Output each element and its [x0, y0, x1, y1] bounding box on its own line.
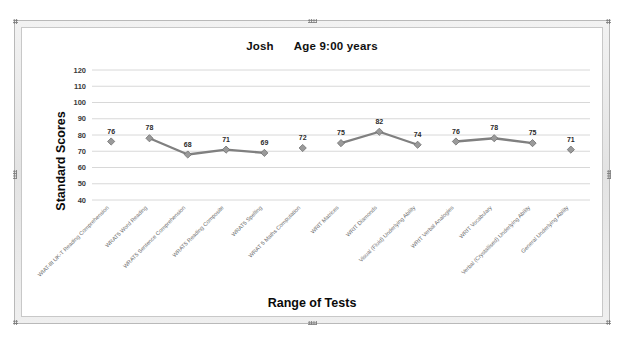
- data-point-marker[interactable]: [299, 144, 306, 151]
- data-point-label: 78: [490, 124, 498, 131]
- x-axis-category-label: WRAT5 Sentence Comprehension: [122, 204, 187, 269]
- y-axis-tick-label: 100: [73, 98, 86, 107]
- data-point-marker[interactable]: [146, 135, 153, 142]
- y-axis-tick-label: 110: [74, 82, 86, 91]
- resize-handle-bottom-center[interactable]: [308, 321, 317, 325]
- data-point-marker[interactable]: [452, 138, 459, 145]
- resize-handle-top-center[interactable]: [308, 19, 317, 23]
- data-point-label: 78: [146, 124, 154, 131]
- data-point-marker[interactable]: [376, 128, 383, 135]
- data-point-marker[interactable]: [491, 135, 498, 142]
- series-line-segment: [149, 138, 264, 154]
- resize-handle-top-right[interactable]: [606, 19, 611, 24]
- data-point-marker[interactable]: [222, 146, 229, 153]
- data-point-label: 76: [107, 128, 115, 135]
- data-point-label: 75: [529, 129, 537, 136]
- x-axis-category-label: WRIT Verbal Analogies: [410, 204, 455, 249]
- embedded-chart-object-frame[interactable]: Josh Age 9:00 years Standard Scores Rang…: [14, 20, 610, 324]
- x-axis-category-label: WIAT-III UK-T Reading Comprehension: [37, 204, 110, 277]
- resize-handle-top-left[interactable]: [13, 19, 18, 24]
- resize-handle-bottom-right[interactable]: [606, 320, 611, 325]
- chart-container[interactable]: Josh Age 9:00 years Standard Scores Rang…: [21, 27, 603, 317]
- x-axis-category-label: WRIT Matrices: [309, 204, 339, 234]
- data-point-label: 69: [260, 139, 268, 146]
- x-axis-category-labels: WIAT-III UK-T Reading ComprehensionWRAT5…: [37, 204, 570, 277]
- chart-svg: 120110100908070605040 767868716972758274…: [22, 28, 606, 320]
- x-axis-category-label: WRAT5 Word Reading: [104, 204, 148, 248]
- y-axis-tick-label: 70: [78, 147, 86, 156]
- x-axis-category-label: WRIT Vocabulary: [458, 204, 493, 239]
- y-axis-tick-label: 50: [78, 179, 86, 188]
- y-axis-tick-label: 60: [78, 163, 86, 172]
- data-point-label: 71: [222, 136, 230, 143]
- y-axis-tick-label: 120: [73, 66, 86, 75]
- data-point-label: 68: [184, 141, 192, 148]
- data-point-label: 72: [299, 134, 307, 141]
- data-point-label: 82: [375, 118, 383, 125]
- y-axis-tick-label: 90: [78, 114, 86, 123]
- data-point-marker[interactable]: [414, 141, 421, 148]
- data-point-marker[interactable]: [567, 146, 574, 153]
- y-axis-tick-labels: 120110100908070605040: [73, 66, 86, 205]
- data-point-label: 71: [567, 136, 575, 143]
- data-point-label: 74: [414, 131, 422, 138]
- resize-handle-middle-right[interactable]: [607, 170, 611, 179]
- chart-plot-area: 120110100908070605040 767868716972758274…: [22, 28, 602, 316]
- data-point-marker[interactable]: [261, 149, 268, 156]
- y-axis-tick-label: 80: [78, 131, 86, 140]
- data-point-marker[interactable]: [108, 138, 115, 145]
- resize-handle-middle-left[interactable]: [13, 170, 17, 179]
- data-point-label: 75: [337, 129, 345, 136]
- y-axis-tick-label: 40: [78, 196, 86, 205]
- x-axis-category-label: WRAT5 Spelling: [230, 204, 263, 237]
- data-point-label: 76: [452, 128, 460, 135]
- data-point-marker[interactable]: [337, 140, 344, 147]
- data-point-marker[interactable]: [529, 140, 536, 147]
- resize-handle-bottom-left[interactable]: [13, 320, 18, 325]
- x-axis-category-label: WRIT Diamonds: [345, 204, 378, 237]
- data-point-marker[interactable]: [184, 151, 191, 158]
- x-axis-category-label: Verbal (Crystallised) Underlying Ability: [460, 204, 531, 275]
